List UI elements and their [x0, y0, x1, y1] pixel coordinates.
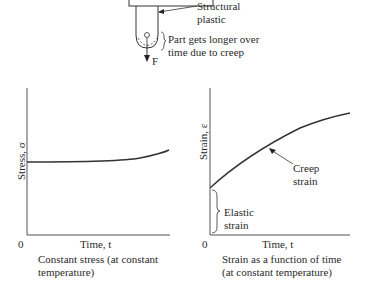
material-label: Structural — [197, 0, 240, 12]
stress-origin-label: 0 — [18, 238, 24, 250]
stress-y-axis-label: Stress, σ — [15, 142, 27, 180]
force-label: F — [152, 55, 158, 67]
material-label-line2: plastic — [197, 13, 226, 25]
creep-strain-label: Creep — [293, 162, 319, 174]
strain-caption: Strain as a function of time — [222, 253, 341, 266]
stress-caption: Constant stress (at constant — [38, 253, 158, 266]
stress-x-axis-label: Time, t — [80, 238, 111, 250]
elastic-strain-label: Elastic — [224, 206, 254, 218]
strain-x-axis-label: Time, t — [262, 238, 293, 250]
strain-origin-label: 0 — [202, 238, 208, 250]
stress-caption-line2: temperature) — [38, 266, 94, 279]
strain-y-axis-label: Strain, ε — [197, 124, 209, 160]
stress-chart — [27, 88, 170, 235]
creep-strain-label-line2: strain — [293, 175, 317, 187]
creep-note-line2: time due to creep — [168, 46, 244, 58]
strain-caption-line2: (at constant temperature) — [222, 266, 332, 279]
creep-note: Part gets longer over — [168, 33, 259, 45]
elastic-strain-label-line2: strain — [224, 219, 248, 231]
